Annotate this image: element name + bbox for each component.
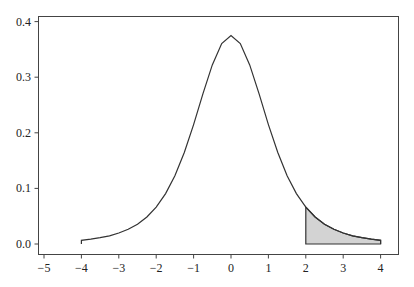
x-tick-label: 0 xyxy=(228,261,234,275)
x-tick-label: −2 xyxy=(150,261,163,275)
x-tick-label: −3 xyxy=(112,261,125,275)
x-tick-label: 3 xyxy=(340,261,346,275)
y-axis: 0.00.10.20.30.4 xyxy=(16,15,39,251)
x-axis: −5−4−3−2−101234 xyxy=(38,255,384,276)
y-tick-label: 0.1 xyxy=(16,181,31,195)
density-curve xyxy=(81,36,380,245)
x-tick-label: −4 xyxy=(75,261,88,275)
y-tick-label: 0.3 xyxy=(16,70,31,84)
plot-area xyxy=(39,17,399,255)
density-chart: −5−4−3−2−101234 0.00.10.20.30.4 xyxy=(0,0,414,287)
y-tick-label: 0.2 xyxy=(16,126,31,140)
y-tick-label: 0.4 xyxy=(16,15,31,29)
x-tick-label: −1 xyxy=(187,261,200,275)
x-tick-label: −5 xyxy=(38,261,51,275)
x-tick-label: 4 xyxy=(378,261,384,275)
x-tick-label: 2 xyxy=(303,261,309,275)
x-tick-label: 1 xyxy=(265,261,271,275)
y-tick-label: 0.0 xyxy=(16,237,31,251)
